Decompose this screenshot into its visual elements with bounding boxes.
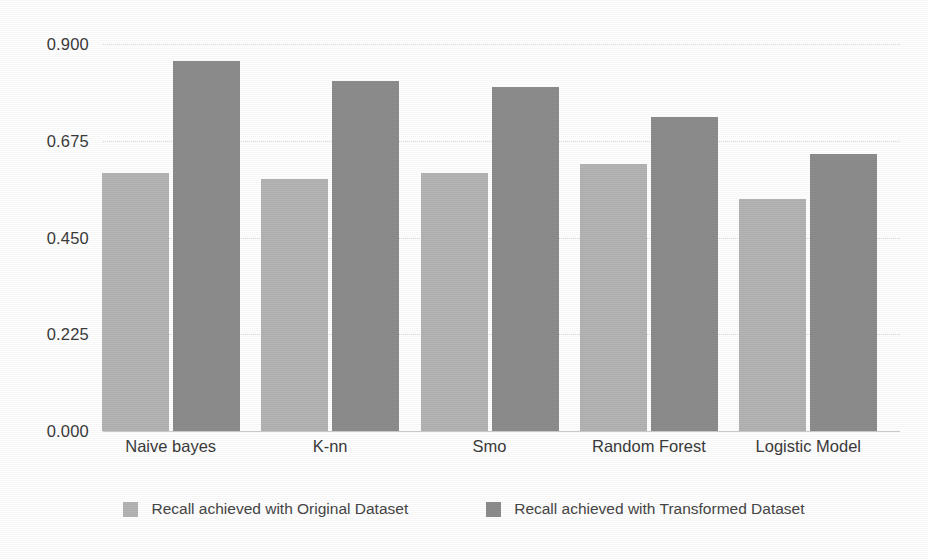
bar-group bbox=[580, 20, 718, 431]
legend-item[interactable]: Recall achieved with Original Dataset bbox=[123, 500, 408, 518]
bar-group bbox=[102, 20, 240, 431]
bar-original[interactable] bbox=[421, 173, 488, 431]
bar-original[interactable] bbox=[580, 164, 647, 431]
plot-area: 0.9000.6750.4500.2250.000 bbox=[103, 20, 900, 431]
x-axis-category-label: Naive bayes bbox=[125, 437, 216, 456]
bar-transformed[interactable] bbox=[173, 61, 240, 431]
legend-label: Recall achieved with Original Dataset bbox=[151, 500, 408, 518]
bar-chart: 0.9000.6750.4500.2250.000 Naive bayesK-n… bbox=[0, 0, 928, 559]
bar-transformed[interactable] bbox=[810, 154, 877, 431]
x-axis-category-label: K-nn bbox=[313, 437, 348, 456]
x-axis-category-label: Logistic Model bbox=[756, 437, 861, 456]
bar-original[interactable] bbox=[261, 179, 328, 431]
bar-group bbox=[421, 20, 559, 431]
bar-original[interactable] bbox=[739, 199, 806, 431]
x-axis-category-label: Random Forest bbox=[592, 437, 706, 456]
y-tick-label: 0.000 bbox=[47, 422, 89, 441]
bar-original[interactable] bbox=[102, 173, 169, 431]
bar-transformed[interactable] bbox=[651, 117, 718, 431]
legend-swatch-icon bbox=[486, 502, 501, 517]
x-axis-labels: Naive bayesK-nnSmoRandom ForestLogistic … bbox=[103, 437, 900, 467]
legend-swatch-icon bbox=[123, 502, 138, 517]
bar-group bbox=[261, 20, 399, 431]
chart-legend: Recall achieved with Original DatasetRec… bbox=[0, 500, 928, 518]
legend-label: Recall achieved with Transformed Dataset bbox=[514, 500, 804, 518]
legend-item[interactable]: Recall achieved with Transformed Dataset bbox=[486, 500, 804, 518]
x-axis-category-label: Smo bbox=[473, 437, 507, 456]
bar-transformed[interactable] bbox=[332, 81, 399, 431]
bar-group bbox=[739, 20, 877, 431]
y-tick-label: 0.225 bbox=[47, 325, 89, 344]
y-tick-label: 0.450 bbox=[47, 228, 89, 247]
bar-groups bbox=[103, 20, 900, 431]
gridline-0.000 bbox=[103, 431, 900, 432]
bar-transformed[interactable] bbox=[492, 87, 559, 431]
y-tick-label: 0.900 bbox=[47, 35, 89, 54]
y-tick-label: 0.675 bbox=[47, 131, 89, 150]
